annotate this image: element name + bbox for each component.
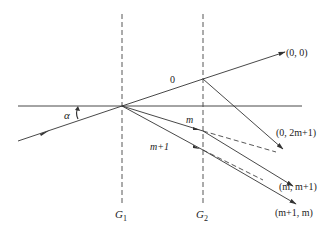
output-label-m-m1: (m, m+1)	[279, 181, 317, 193]
ray-label-m: m	[186, 114, 193, 125]
angle-arrow-icon	[75, 106, 80, 111]
ray-out-m1-m	[203, 150, 296, 204]
ray-m-arrow-icon	[193, 127, 200, 130]
ray-order-0-segment	[122, 79, 203, 106]
ray-m1-arrow-icon	[193, 145, 200, 149]
ray-out-m-m1	[203, 131, 293, 186]
ray-label-m1: m+1	[150, 141, 169, 152]
output-label-0-0: (0, 0)	[286, 47, 308, 59]
angle-label: α	[64, 109, 70, 121]
output-label-0-2m1-text: (0, 2m+1)	[276, 127, 316, 139]
diffraction-diagram: α 0 (0, 0) (0, 2m+1) m (m, m+1) m+1 (m+1…	[0, 0, 332, 235]
ray-m1-dashed-continuation	[203, 150, 263, 180]
incident-ray	[18, 106, 122, 141]
ray-label-0: 0	[170, 74, 175, 85]
ray-out-0-0	[203, 52, 285, 79]
grating-label-g2: G2	[196, 208, 208, 223]
grating-label-g1: G1	[115, 208, 127, 223]
ray-m-dashed-continuation	[203, 131, 276, 152]
output-label-m1-m: (m+1, m)	[275, 207, 313, 219]
